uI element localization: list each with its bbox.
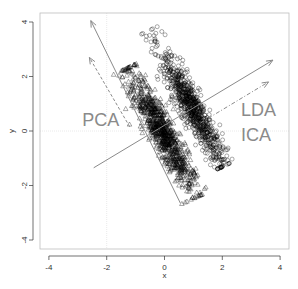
label-ica: ICA — [241, 125, 271, 145]
arrowhead-icon — [262, 82, 269, 88]
y-tick-label: 0 — [20, 128, 29, 133]
y-tick-label: 2 — [20, 74, 29, 79]
x-tick-label: 4 — [278, 263, 283, 272]
x-tick-label: -4 — [45, 263, 53, 272]
y-tick-label: 4 — [20, 19, 29, 24]
x-tick-label: 2 — [220, 263, 225, 272]
y-axis-label: y — [7, 129, 16, 133]
axes: -4-2024-4-2024 — [20, 19, 283, 272]
data-points — [111, 25, 234, 206]
x-axis-label: x — [163, 271, 167, 280]
scatter-chart: -4-2024-4-2024 PCALDAICA x y — [0, 0, 298, 289]
arrowhead-icon — [89, 57, 95, 64]
label-lda: LDA — [241, 100, 276, 120]
label-pca: PCA — [82, 110, 119, 130]
x-tick-label: -2 — [103, 263, 111, 272]
y-tick-label: -2 — [20, 181, 29, 189]
arrowhead-icon — [266, 60, 273, 66]
y-tick-label: -4 — [20, 236, 29, 244]
